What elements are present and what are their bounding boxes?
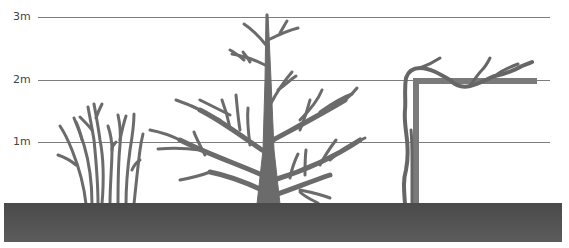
trellis-icon [413,78,537,204]
shrub-icon [58,104,143,204]
trellis-post [413,78,419,204]
tree-icon [150,14,365,204]
diagram-canvas [0,0,569,248]
plant-height-diagram: 3m 2m 1m [0,0,569,248]
ground [4,203,562,242]
